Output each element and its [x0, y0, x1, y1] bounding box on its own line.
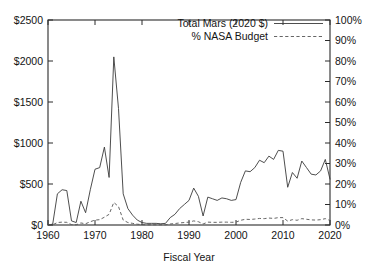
y-tick-label-right: 60%	[335, 96, 356, 108]
chart-legend: Total Mars (2020 $) % NASA Budget	[178, 17, 323, 42]
x-axis-title: Fiscal Year	[163, 251, 215, 263]
series-total-mars-line	[48, 57, 330, 225]
x-tick-label: 1990	[177, 229, 201, 241]
y-tick-label-left: $2000	[14, 55, 43, 67]
legend-label-total-mars: Total Mars (2020 $)	[178, 17, 268, 29]
y-tick-label-right: 50%	[335, 116, 356, 128]
y-tick-label-right: 30%	[335, 157, 356, 169]
y-tick-label-right: 70%	[335, 75, 356, 87]
y-tick-label-right: 90%	[335, 34, 356, 46]
y-tick-label-left: $2500	[14, 14, 43, 26]
y-tick-label-left: $1500	[14, 96, 43, 108]
x-tick-label: 1970	[83, 229, 107, 241]
x-tick-label: 2000	[224, 229, 248, 241]
x-tick-label: 1980	[130, 229, 154, 241]
y-axis-left: $0$500$1000$1500$2000$2500	[14, 14, 53, 231]
y-tick-label-right: 100%	[335, 14, 362, 26]
legend-label-nasa-budget: % NASA Budget	[192, 30, 269, 42]
x-axis: 1960197019801990200020102020	[36, 20, 342, 241]
plot-frame	[48, 20, 330, 225]
chart-canvas: $0$500$1000$1500$2000$2500 0%10%20%30%40…	[0, 0, 377, 276]
x-tick-label: 2010	[271, 229, 295, 241]
series-group	[48, 57, 330, 225]
x-tick-label: 2020	[318, 229, 342, 241]
x-tick-label: 1960	[36, 229, 60, 241]
y-tick-label-right: 20%	[335, 178, 356, 190]
y-tick-label-left: $500	[20, 178, 44, 190]
y-tick-label-right: 40%	[335, 137, 356, 149]
y-tick-label-right: 10%	[335, 198, 356, 210]
y-tick-label-left: $1000	[14, 137, 43, 149]
y-tick-label-right: 80%	[335, 55, 356, 67]
chart-figure: $0$500$1000$1500$2000$2500 0%10%20%30%40…	[0, 0, 377, 276]
